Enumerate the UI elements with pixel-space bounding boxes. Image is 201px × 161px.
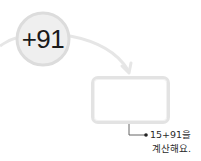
note-line-1: 15+91을 [150,129,191,140]
incoming-arrow-curve [0,38,16,46]
note-line-2: 계산해요. [150,142,201,156]
arrow-curve [70,36,128,70]
leader-dot-icon [144,133,148,137]
answer-box[interactable] [91,76,170,124]
operation-label: +91 [16,24,70,54]
instruction-note: 15+91을 계산해요. [150,128,201,156]
